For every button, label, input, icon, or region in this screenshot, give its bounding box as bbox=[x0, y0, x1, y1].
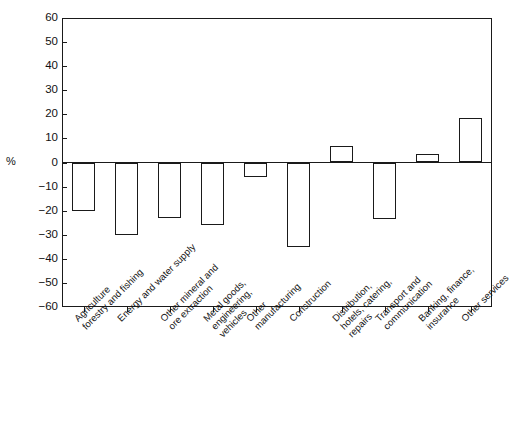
bar-chart: % 6050403020100−10−20−30−40−50−60 Agricu… bbox=[0, 0, 510, 427]
bar bbox=[416, 154, 440, 162]
y-axis-tick--40: −40 bbox=[24, 253, 58, 265]
bar bbox=[373, 163, 397, 220]
y-axis-tick-10: 10 bbox=[24, 133, 58, 145]
y-axis-tick--20: −20 bbox=[24, 205, 58, 217]
y-axis-tick-40: 40 bbox=[24, 60, 58, 72]
x-axis-category-labels: Agriculture forestry and fishingEnergy a… bbox=[0, 307, 510, 417]
bar bbox=[459, 118, 483, 163]
bar bbox=[115, 163, 139, 235]
bar bbox=[72, 163, 96, 211]
bar bbox=[244, 163, 268, 177]
y-axis-tick-20: 20 bbox=[24, 109, 58, 121]
y-axis-tick--10: −10 bbox=[24, 181, 58, 193]
bar bbox=[201, 163, 225, 226]
y-axis-tick-0: 0 bbox=[24, 157, 58, 169]
y-axis-unit-label: % bbox=[6, 155, 16, 167]
y-axis-tick--30: −30 bbox=[24, 229, 58, 241]
bar bbox=[287, 163, 311, 247]
bar bbox=[330, 146, 354, 163]
y-axis-tick-30: 30 bbox=[24, 85, 58, 97]
y-axis-tick-50: 50 bbox=[24, 36, 58, 48]
y-axis-tick-60: 60 bbox=[24, 12, 58, 24]
bar bbox=[158, 163, 182, 218]
y-axis-tick--50: −50 bbox=[24, 277, 58, 289]
figure-caption bbox=[22, 417, 492, 427]
figure: % 6050403020100−10−20−30−40−50−60 Agricu… bbox=[0, 0, 510, 427]
